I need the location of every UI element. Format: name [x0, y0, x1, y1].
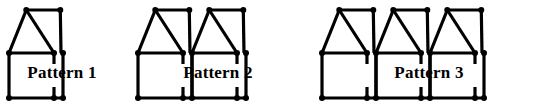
node-wall-top-left [319, 50, 325, 56]
node-wall-top-right [481, 50, 487, 56]
node-ceiling-joint [472, 50, 478, 56]
roof-right-rafter [373, 10, 374, 53]
node-ceiling-joint [51, 50, 57, 56]
roof-inner-rafter [155, 10, 183, 53]
node-roof-apex [23, 7, 29, 13]
node-floor-joint [472, 95, 478, 101]
roof-right-rafter [427, 10, 428, 53]
node-roof-ridge-right [424, 7, 430, 13]
node-roof-ridge-right [240, 7, 246, 13]
node-floor-right [373, 95, 379, 101]
roof-left-rafter [322, 10, 339, 53]
node-floor-right [481, 95, 487, 101]
node-roof-ridge-right [478, 7, 484, 13]
roof-inner-rafter [393, 10, 421, 53]
matchstick-figure: Pattern 1 Pattern 2 Pattern 3 [0, 0, 559, 112]
roof-inner-rafter [26, 10, 54, 53]
roof-right-rafter [243, 10, 244, 53]
node-roof-apex [390, 7, 396, 13]
node-ceiling-joint [418, 50, 424, 56]
node-wall-top-right [243, 50, 249, 56]
node-wall-top-right [60, 50, 66, 56]
node-floor-joint [51, 95, 57, 101]
node-ceiling-joint [234, 50, 240, 56]
node-roof-apex [444, 7, 450, 13]
roof-left-rafter [192, 10, 209, 53]
node-roof-apex [336, 7, 342, 13]
node-floor-joint [234, 95, 240, 101]
roof-inner-rafter [447, 10, 475, 53]
node-floor-right [60, 95, 66, 101]
node-wall-top-right [373, 50, 379, 56]
node-wall-top-left [135, 50, 141, 56]
pattern-3-label: Pattern 3 [394, 63, 463, 82]
node-roof-ridge-right [57, 7, 63, 13]
node-wall-top-right [189, 50, 195, 56]
node-floor-right [189, 95, 195, 101]
pattern-1-label: Pattern 1 [27, 63, 96, 82]
node-wall-top-right [427, 50, 433, 56]
roof-left-rafter [138, 10, 155, 53]
roof-inner-rafter [339, 10, 367, 53]
roof-inner-rafter [209, 10, 237, 53]
node-roof-ridge-right [370, 7, 376, 13]
roof-left-rafter [376, 10, 393, 53]
node-floor-left [135, 95, 141, 101]
node-floor-right [427, 95, 433, 101]
pattern-2-label: Pattern 2 [183, 63, 252, 82]
node-ceiling-joint [364, 50, 370, 56]
node-floor-joint [418, 95, 424, 101]
roof-right-rafter [60, 10, 61, 53]
node-floor-joint [364, 95, 370, 101]
node-roof-apex [152, 7, 158, 13]
labels-layer: Pattern 1 Pattern 2 Pattern 3 [27, 63, 463, 82]
roof-right-rafter [481, 10, 482, 53]
figure-canvas: Pattern 1 Pattern 2 Pattern 3 [0, 0, 559, 112]
node-floor-left [6, 95, 12, 101]
node-roof-apex [206, 7, 212, 13]
node-roof-ridge-right [186, 7, 192, 13]
roof-left-rafter [430, 10, 447, 53]
node-floor-right [243, 95, 249, 101]
roof-left-rafter [9, 10, 26, 53]
node-floor-left [319, 95, 325, 101]
node-floor-joint [180, 95, 186, 101]
node-ceiling-joint [180, 50, 186, 56]
roof-right-rafter [189, 10, 190, 53]
node-wall-top-left [6, 50, 12, 56]
